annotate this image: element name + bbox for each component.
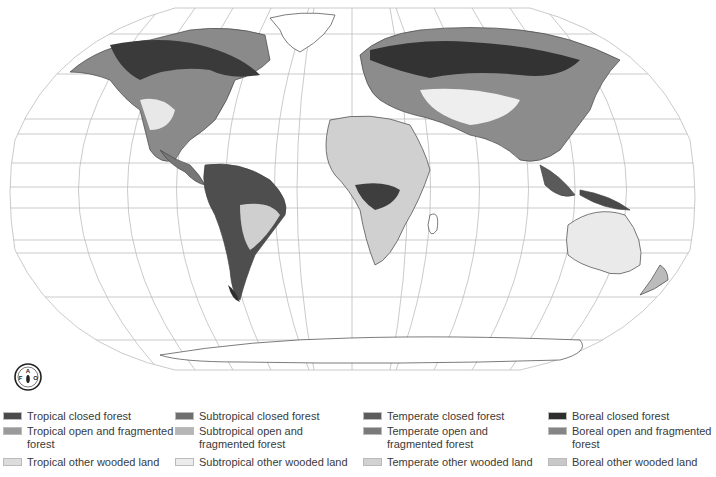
legend-swatch <box>3 427 22 435</box>
legend-label: Subtropical other wooded land <box>199 456 348 468</box>
legend-item: Boreal open and fragmented forest <box>545 425 716 453</box>
legend-label: Temperate closed forest <box>387 410 504 422</box>
legend-swatch <box>548 427 567 435</box>
landmasses <box>70 13 668 363</box>
svg-text:F: F <box>19 375 23 381</box>
legend-swatch <box>363 412 382 420</box>
greenland <box>270 13 335 52</box>
legend-label: Subtropical open and fragmented forest <box>199 425 303 450</box>
legend-item: Subtropical open and fragmented forest <box>172 425 349 453</box>
legend-label: Boreal open and fragmented forest <box>572 425 711 450</box>
legend: Tropical closed forest Tropical open and… <box>0 410 704 477</box>
svg-text:O: O <box>33 375 38 381</box>
legend-label: Tropical closed forest <box>27 410 131 422</box>
legend-label: Tropical open and fragmented forest <box>27 425 173 450</box>
legend-swatch <box>175 458 194 466</box>
legend-swatch <box>363 427 382 435</box>
legend-label: Tropical other wooded land <box>27 456 159 468</box>
legend-swatch <box>175 427 194 435</box>
world-forest-map <box>0 0 704 375</box>
legend-label: Boreal closed forest <box>572 410 669 422</box>
legend-item: Subtropical closed forest <box>172 410 349 424</box>
svg-text:A: A <box>26 368 31 374</box>
legend-swatch <box>548 412 567 420</box>
legend-item: Tropical other wooded land <box>0 456 177 470</box>
fao-logo: A F O <box>14 363 42 391</box>
legend-item: Temperate other wooded land <box>360 456 537 470</box>
legend-item: Boreal other wooded land <box>545 456 716 470</box>
legend-item: Tropical closed forest <box>0 410 177 424</box>
legend-swatch <box>548 458 567 466</box>
legend-column-boreal: Boreal closed forest Boreal open and fra… <box>545 410 716 471</box>
legend-label: Subtropical closed forest <box>199 410 319 422</box>
legend-label: Temperate open and fragmented forest <box>387 425 488 450</box>
legend-column-tropical: Tropical closed forest Tropical open and… <box>0 410 177 471</box>
legend-swatch <box>3 458 22 466</box>
antarctica <box>160 337 583 363</box>
legend-swatch <box>363 458 382 466</box>
legend-label: Boreal other wooded land <box>572 456 697 468</box>
legend-item: Boreal closed forest <box>545 410 716 424</box>
legend-column-temperate: Temperate closed forest Temperate open a… <box>360 410 537 471</box>
legend-column-subtropical: Subtropical closed forest Subtropical op… <box>172 410 349 471</box>
legend-item: Subtropical other wooded land <box>172 456 349 470</box>
legend-swatch <box>175 412 194 420</box>
legend-swatch <box>3 412 22 420</box>
australia <box>567 212 642 274</box>
legend-item: Temperate closed forest <box>360 410 537 424</box>
legend-label: Temperate other wooded land <box>387 456 533 468</box>
legend-item: Temperate open and fragmented forest <box>360 425 537 453</box>
legend-item: Tropical open and fragmented forest <box>0 425 177 453</box>
